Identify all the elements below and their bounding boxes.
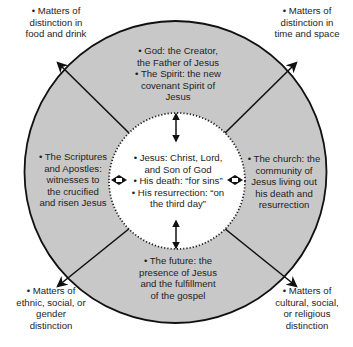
- text-line: distinction in: [262, 17, 352, 29]
- text-line: and Apostles:: [30, 163, 116, 175]
- ring-right-text: • The church: the community of Jesus liv…: [244, 153, 324, 211]
- text-line: • Matters of: [262, 285, 352, 297]
- text-line: the Father of Jesus: [126, 57, 230, 69]
- corner-bottom-right-text: • Matters of cultural, social, or religi…: [262, 285, 352, 331]
- text-line: • The future: the: [126, 255, 230, 267]
- text-line: distinction: [6, 320, 96, 332]
- text-line: witnesses to: [30, 174, 116, 186]
- text-line: the third day”: [124, 198, 232, 210]
- text-line: and Son of God: [124, 164, 232, 176]
- text-line: community of: [244, 165, 324, 177]
- center-text: • Jesus: Christ, Lord, and Son of God • …: [124, 152, 232, 210]
- text-line: of the gospel: [126, 290, 230, 302]
- ring-left-text: • The Scriptures and Apostles: witnesses…: [30, 151, 116, 209]
- corner-bottom-left-text: • Matters of ethnic, social, or gender d…: [6, 285, 96, 331]
- text-line: • The Scriptures: [30, 151, 116, 163]
- text-line: • Matters of: [6, 285, 96, 297]
- text-line: distinction in: [6, 17, 106, 29]
- text-line: resurrection: [244, 199, 324, 211]
- text-line: • Matters of: [6, 5, 106, 17]
- text-line: presence of Jesus: [126, 267, 230, 279]
- text-line: time and space: [262, 28, 352, 40]
- text-line: the crucified: [30, 186, 116, 198]
- text-line: and risen Jesus: [30, 197, 116, 209]
- text-line: distinction: [262, 320, 352, 332]
- text-line: • God: the Creator,: [126, 45, 230, 57]
- text-line: • The Spirit: the new: [126, 68, 230, 80]
- text-line: covenant Spirit of: [126, 80, 230, 92]
- text-line: or religious: [262, 308, 352, 320]
- text-line: • The church: the: [244, 153, 324, 165]
- text-line: • Matters of: [262, 5, 352, 17]
- text-line: Jesus: [126, 91, 230, 103]
- text-line: food and drink: [6, 28, 106, 40]
- text-line: his death and: [244, 188, 324, 200]
- text-line: Jesus living out: [244, 176, 324, 188]
- ring-bottom-text: • The future: the presence of Jesus and …: [126, 255, 230, 301]
- text-line: • His death: “for sins”: [124, 175, 232, 187]
- text-line: ethnic, social, or: [6, 297, 96, 309]
- corner-top-right-text: • Matters of distinction in time and spa…: [262, 5, 352, 40]
- ring-top-text: • God: the Creator, the Father of Jesus …: [126, 45, 230, 103]
- text-line: gender: [6, 308, 96, 320]
- corner-top-left-text: • Matters of distinction in food and dri…: [6, 5, 106, 40]
- text-line: • Jesus: Christ, Lord,: [124, 152, 232, 164]
- text-line: and the fulfillment: [126, 278, 230, 290]
- text-line: cultural, social,: [262, 297, 352, 309]
- text-line: • His resurrection: “on: [124, 187, 232, 199]
